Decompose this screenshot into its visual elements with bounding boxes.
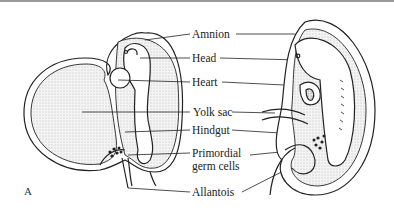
panel-label: A	[24, 185, 32, 197]
label-germ-cells: germ cells	[192, 160, 240, 172]
label-yolk-sac: Yolk sac	[193, 106, 232, 118]
right-embryo	[262, 20, 375, 195]
label-head: Head	[192, 52, 216, 64]
label-heart: Heart	[192, 76, 218, 88]
label-allantois: Allantois	[192, 186, 234, 198]
left-embryo	[24, 33, 183, 188]
label-hindgut: Hindgut	[192, 124, 230, 136]
label-amnion: Amnion	[192, 28, 230, 40]
label-primordial: Primordial	[192, 147, 241, 159]
